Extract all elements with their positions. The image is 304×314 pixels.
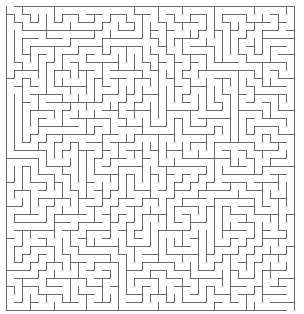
maze-board — [0, 0, 304, 314]
maze-grid[interactable] — [0, 0, 304, 314]
